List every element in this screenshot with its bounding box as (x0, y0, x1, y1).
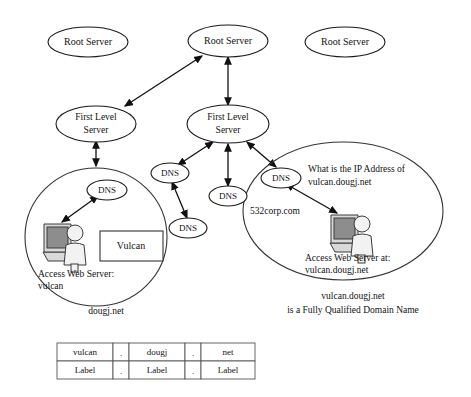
left-client-person-head (67, 225, 83, 241)
dns-diagram-canvas: Root Server Root Server Root Server Firs… (0, 0, 471, 397)
left-zone-name: dougj.net (88, 306, 124, 316)
dns-node-a-label: DNS (161, 168, 179, 178)
root-server-1-label: Root Server (64, 36, 113, 47)
table-cell-text: . (192, 348, 194, 358)
footnote-line1: vulcan.dougj.net (321, 291, 385, 301)
fqdn-table: vulcan . dougj . net Label . Label . Lab… (57, 343, 255, 379)
dns-node-b[interactable]: DNS (209, 186, 247, 206)
left-zone-server-box[interactable]: Vulcan (100, 231, 163, 261)
left-zone-caption-line2: vulcan (38, 281, 64, 291)
root-server-1[interactable]: Root Server (48, 27, 128, 57)
root-server-2-label: Root Server (204, 35, 253, 46)
right-zone-dns-node[interactable]: DNS (261, 168, 301, 188)
connector-leftzone-client-to-dns (62, 196, 98, 222)
connector-root2-to-fls1 (125, 56, 202, 106)
root-server-3[interactable]: Root Server (305, 27, 385, 57)
first-level-server-2-label-line2: Server (216, 125, 242, 135)
left-client-workstation-icon (43, 224, 86, 272)
dns-diagram-page: Root Server Root Server Root Server Firs… (0, 0, 471, 397)
right-zone-caption-line2: vulcan.dougj.net (305, 265, 369, 275)
dns-node-b-label: DNS (219, 191, 237, 201)
table-cell-text: . (192, 366, 194, 376)
dns-node-c-label: DNS (179, 223, 197, 233)
first-level-server-1-label-line2: Server (84, 125, 110, 135)
dns-node-a[interactable]: DNS (151, 163, 189, 183)
right-zone-query-line2: vulcan.dougj.net (308, 177, 372, 187)
connector-fls2-to-dns-a (178, 142, 213, 165)
dns-node-c[interactable]: DNS (169, 218, 207, 238)
connector-dns-a-to-dns-d (172, 182, 187, 218)
first-level-server-2-label-line1: First Level (207, 112, 249, 122)
left-zone-server-box-label: Vulcan (117, 240, 145, 251)
right-zone-query-line1: What is the IP Address of (308, 164, 406, 174)
right-zone-dns-label: DNS (272, 173, 290, 183)
right-zone-name: 532corp.com (250, 206, 300, 216)
table-cell-text: Label (147, 365, 168, 375)
first-level-server-2[interactable]: First Level Server (187, 105, 269, 143)
left-zone-dns-node[interactable]: DNS (87, 180, 127, 200)
table-cell-text: vulcan (73, 347, 97, 357)
right-zone-caption-line1: Access Web Server at: (305, 253, 390, 263)
left-client-person-body (64, 243, 86, 265)
table-cell-text: Label (75, 365, 96, 375)
table-cell-text: Label (218, 365, 239, 375)
root-server-3-label: Root Server (321, 36, 370, 47)
first-level-server-1[interactable]: First Level Server (56, 106, 136, 142)
first-level-server-2-shape (187, 105, 269, 143)
table-cell-text: net (223, 347, 234, 357)
left-zone-dns-label: DNS (98, 185, 116, 195)
first-level-server-1-label-line1: First Level (75, 112, 117, 122)
table-cell-text: . (120, 348, 122, 358)
left-client-screen (47, 227, 68, 248)
left-zone-caption-line1: Access Web Server: (38, 269, 114, 279)
root-server-2[interactable]: Root Server (188, 25, 268, 57)
right-client-person-head (354, 216, 370, 232)
table-cell-text: dougj (147, 347, 168, 357)
right-client-screen (334, 218, 355, 239)
table-cell-text: . (120, 366, 122, 376)
footnote-line2: is a Fully Qualified Domain Name (287, 305, 419, 315)
